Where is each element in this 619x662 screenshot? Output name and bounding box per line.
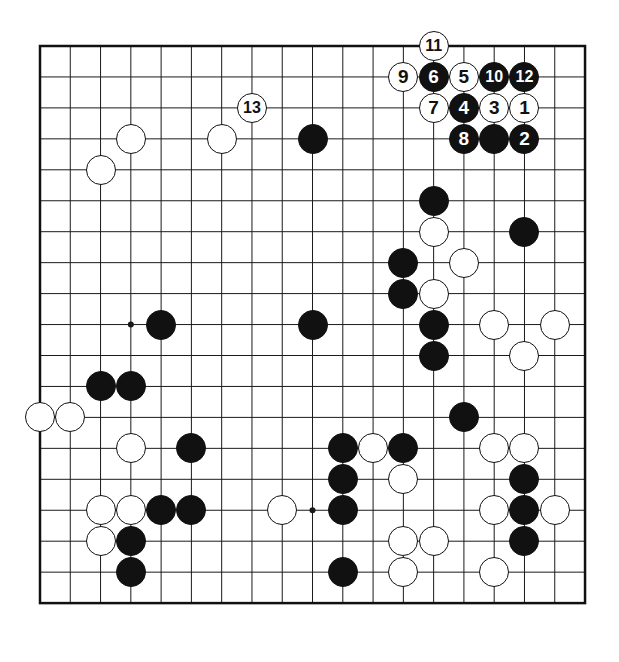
move-number: 12 xyxy=(516,69,534,85)
move-number: 1 xyxy=(519,98,530,117)
white-stone xyxy=(540,495,570,525)
move-number: 5 xyxy=(459,67,470,86)
move-number: 13 xyxy=(243,100,261,116)
black-stone xyxy=(86,371,116,401)
move-number: 9 xyxy=(398,67,409,86)
white-stone xyxy=(207,124,237,154)
move-number: 11 xyxy=(425,38,442,54)
white-stone xyxy=(419,217,449,247)
white-stone xyxy=(86,155,116,185)
white-stone xyxy=(509,341,539,371)
black-stone xyxy=(298,124,328,154)
black-stone xyxy=(116,557,146,587)
black-stone xyxy=(419,341,449,371)
numbered-move-7: 7 xyxy=(419,93,449,123)
black-stone xyxy=(298,310,328,340)
white-stone xyxy=(449,248,479,278)
move-number: 8 xyxy=(459,129,470,148)
black-stone xyxy=(388,279,418,309)
black-stone xyxy=(328,557,358,587)
black-stone xyxy=(328,433,358,463)
black-stone xyxy=(479,124,509,154)
move-number: 7 xyxy=(428,98,439,117)
black-stone xyxy=(509,217,539,247)
move-number: 3 xyxy=(489,98,500,117)
white-stone xyxy=(116,124,146,154)
black-stone xyxy=(328,464,358,494)
white-stone xyxy=(479,310,509,340)
numbered-move-3: 3 xyxy=(479,93,509,123)
move-number: 4 xyxy=(459,98,470,117)
black-stone xyxy=(419,186,449,216)
black-stone xyxy=(388,248,418,278)
white-stone xyxy=(419,279,449,309)
go-board-diagram: 12345678910111213 xyxy=(0,0,619,662)
numbered-move-6: 6 xyxy=(419,62,449,92)
black-stone xyxy=(419,310,449,340)
white-stone xyxy=(86,495,116,525)
black-stone xyxy=(146,310,176,340)
numbered-move-13: 13 xyxy=(237,93,267,123)
move-number: 6 xyxy=(428,67,439,86)
white-stone xyxy=(116,495,146,525)
white-stone xyxy=(86,526,116,556)
white-stone xyxy=(419,526,449,556)
move-number: 10 xyxy=(485,69,503,85)
numbered-move-8: 8 xyxy=(449,124,479,154)
numbered-move-11: 11 xyxy=(419,31,449,61)
white-stone xyxy=(116,433,146,463)
black-stone xyxy=(116,526,146,556)
move-number: 2 xyxy=(519,129,530,148)
numbered-move-10: 10 xyxy=(479,62,509,92)
numbered-move-5: 5 xyxy=(449,62,479,92)
white-stone xyxy=(540,310,570,340)
numbered-move-4: 4 xyxy=(449,93,479,123)
black-stone xyxy=(328,495,358,525)
